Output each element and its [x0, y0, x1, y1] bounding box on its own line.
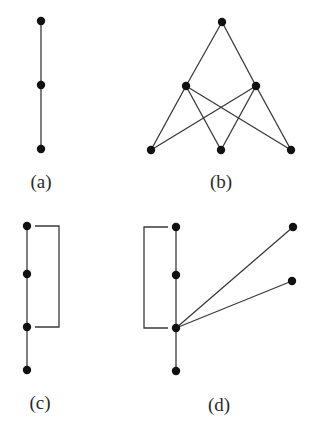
- node: [252, 82, 260, 90]
- node: [23, 323, 31, 331]
- panel-b-nodes: [147, 18, 295, 154]
- panel-d: (d): [144, 223, 297, 416]
- edge: [222, 22, 256, 86]
- node: [147, 146, 155, 154]
- node: [23, 222, 31, 230]
- panel-b: (b): [147, 18, 295, 193]
- panel-b-edges: [151, 22, 291, 150]
- node: [23, 366, 31, 374]
- node: [172, 324, 180, 332]
- edge: [176, 281, 292, 328]
- panel-b-label: (b): [210, 171, 232, 193]
- diagram-canvas: (a) (b) (c) (d): [0, 0, 323, 440]
- edge: [186, 22, 222, 86]
- panel-c: (c): [23, 222, 59, 414]
- panel-d-edges: [176, 227, 293, 371]
- edge: [221, 86, 256, 150]
- panel-d-nodes: [172, 223, 297, 375]
- node: [287, 146, 295, 154]
- node: [289, 223, 297, 231]
- bracket-edge: [144, 227, 168, 328]
- panel-c-brackets: [35, 226, 59, 327]
- edge: [151, 86, 256, 150]
- node: [37, 145, 45, 153]
- node: [172, 223, 180, 231]
- node: [23, 270, 31, 278]
- node: [37, 17, 45, 25]
- edge: [151, 86, 186, 150]
- node: [182, 82, 190, 90]
- node: [217, 146, 225, 154]
- node: [172, 271, 180, 279]
- panel-a: (a): [30, 17, 51, 193]
- node: [218, 18, 226, 26]
- panel-c-label: (c): [29, 392, 50, 414]
- node: [37, 81, 45, 89]
- edge: [176, 227, 293, 328]
- panel-a-label: (a): [30, 171, 51, 193]
- edge: [256, 86, 291, 150]
- panel-d-label: (d): [208, 394, 230, 416]
- node: [172, 367, 180, 375]
- graph-figure: (a) (b) (c) (d): [0, 0, 323, 440]
- panel-d-brackets: [144, 227, 168, 328]
- node: [288, 277, 296, 285]
- bracket-edge: [35, 226, 59, 327]
